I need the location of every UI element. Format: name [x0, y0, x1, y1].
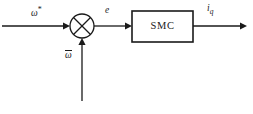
- summing-junction: [70, 14, 94, 38]
- error-symbol: e: [105, 5, 109, 15]
- wire-feedback: [78, 38, 85, 101]
- arrowhead-output: [240, 22, 247, 29]
- wire-output: [193, 22, 247, 29]
- signal-label-omega-feedback: ω: [65, 50, 72, 61]
- omega-reference-superscript: *: [38, 5, 42, 14]
- block-diagram-canvas: SMC ω* e iq ω: [0, 0, 253, 114]
- arrowhead-feedback: [78, 38, 85, 45]
- block-smc-label: SMC: [151, 20, 175, 31]
- signal-label-iq: iq: [207, 4, 213, 15]
- arrowhead-error: [125, 22, 132, 29]
- arrowhead-input: [63, 22, 70, 29]
- wire-input: [2, 22, 70, 29]
- iq-subscript: q: [210, 7, 214, 16]
- signal-label-error: e: [105, 6, 109, 16]
- omega-reference-symbol: ω: [31, 8, 38, 18]
- signal-label-omega-reference: ω*: [31, 6, 42, 19]
- wire-error: [94, 22, 132, 29]
- omega-feedback-symbol: ω: [65, 50, 72, 61]
- block-smc: SMC: [132, 11, 193, 42]
